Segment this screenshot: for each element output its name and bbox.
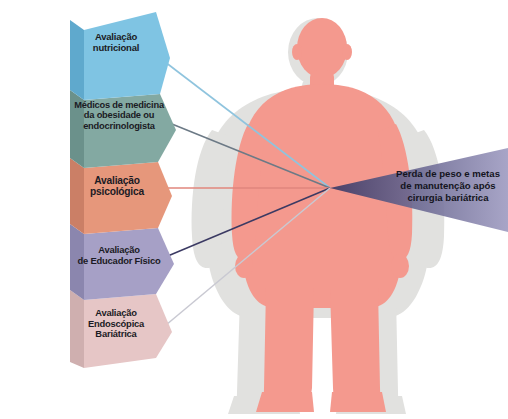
stage-block-3[interactable] xyxy=(70,158,172,234)
stage-block-4-face xyxy=(84,228,174,300)
stage-block-2-face xyxy=(84,94,176,168)
stage-block-3-side xyxy=(70,158,84,234)
stage-block-4[interactable] xyxy=(70,224,174,300)
stage-block-5-side xyxy=(70,290,84,368)
stage-block-2-side xyxy=(70,90,84,168)
stage-stack xyxy=(0,0,508,419)
stage-block-1[interactable] xyxy=(70,12,170,100)
diagram-canvas: Avaliação nutricional Médicos de medicin… xyxy=(0,0,508,419)
stage-block-4-side xyxy=(70,224,84,300)
stage-block-1-face xyxy=(84,12,170,100)
stage-block-1-side xyxy=(70,20,84,100)
stage-block-5[interactable] xyxy=(70,290,172,368)
stage-block-2[interactable] xyxy=(70,90,176,168)
stage-block-3-face xyxy=(84,162,172,234)
stage-block-5-face xyxy=(84,294,172,368)
outcome-label: Perda de peso e metas de manutenção após… xyxy=(392,168,504,204)
